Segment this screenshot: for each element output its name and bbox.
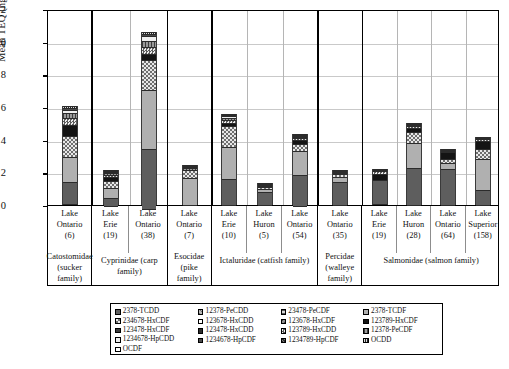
category-group: LakeOntario(7)Esocidae (pike family) bbox=[168, 206, 212, 285]
bar-segment bbox=[373, 180, 387, 205]
family-label: Percidae (walleye family) bbox=[318, 249, 361, 285]
legend-swatch-icon bbox=[115, 347, 121, 353]
site-sample-count: (28) bbox=[407, 230, 421, 241]
bar-segment bbox=[407, 168, 421, 206]
bar-segment bbox=[293, 151, 307, 175]
legend-item[interactable]: 12378-PeCDF bbox=[363, 326, 442, 336]
bar-segment bbox=[183, 170, 197, 177]
legend-item[interactable]: 234678-HxCDF bbox=[115, 316, 194, 325]
legend-swatch-icon bbox=[198, 338, 204, 344]
legend-swatch-icon bbox=[281, 328, 287, 334]
site-label-line: Lake bbox=[140, 208, 157, 219]
legend-label: 123789-HxCDF bbox=[371, 318, 418, 325]
site-label-line: Lake bbox=[256, 208, 273, 219]
site-label-line: Lake bbox=[405, 208, 422, 219]
legend-label: 234678-HxCDF bbox=[123, 318, 170, 325]
legend-swatch-icon bbox=[198, 328, 204, 334]
plot-area bbox=[47, 10, 499, 206]
bar-segment bbox=[258, 192, 272, 206]
legend-item[interactable]: 1234678-HpCDD bbox=[115, 335, 194, 344]
site-label: LakeOntario(38) bbox=[129, 206, 166, 253]
site-label-line: Lake bbox=[439, 208, 456, 219]
legend-label: 2378-TCDF bbox=[371, 308, 406, 315]
legend-item[interactable]: OCDD bbox=[363, 336, 442, 346]
legend-item[interactable]: 1234678-HpCDF bbox=[198, 336, 277, 346]
group-site-row: LakeErie(19)LakeOntario(38) bbox=[92, 206, 166, 253]
legend-item[interactable]: 123478-HxCDF bbox=[115, 326, 194, 335]
y-axis-tick-label: 10 bbox=[0, 38, 6, 49]
y-axis-tick-label: 0 bbox=[0, 201, 6, 212]
bar-segment bbox=[63, 125, 77, 136]
family-label: Esocidae (pike family) bbox=[168, 249, 211, 285]
legend-item[interactable]: 2378-TCDD bbox=[115, 307, 194, 316]
site-label: LakeOntario(6) bbox=[48, 206, 91, 249]
site-label-line: Lake bbox=[331, 208, 348, 219]
legend-item[interactable]: 23478-PeCDF bbox=[281, 307, 360, 317]
site-label: LakeErie(10) bbox=[212, 206, 247, 253]
legend-item[interactable]: 123678-HxCDF bbox=[281, 317, 360, 327]
legend-item[interactable]: 123678-HxCDD bbox=[198, 317, 277, 327]
site-label: LakeHuron(5) bbox=[247, 206, 282, 253]
site-label: LakeOntario(7) bbox=[168, 206, 211, 249]
legend-item[interactable]: 123478-HxCDD bbox=[198, 326, 277, 336]
legend-item[interactable]: 1234789-HpCDF bbox=[281, 336, 360, 346]
legend-swatch-icon bbox=[115, 309, 121, 315]
site-divider bbox=[431, 11, 432, 205]
site-label: LakeOntario(64) bbox=[431, 206, 465, 253]
site-sample-count: (54) bbox=[293, 230, 307, 241]
legend-label: 123478-HxCDD bbox=[206, 327, 254, 334]
legend-column: 23478-PeCDF123678-HxCDF123789-HxCDD12347… bbox=[277, 307, 360, 354]
family-label: Salmonidae (salmon family) bbox=[362, 253, 500, 285]
legend-item[interactable]: OCDF bbox=[115, 345, 194, 354]
site-label-line: Lake bbox=[102, 208, 119, 219]
bar-segment bbox=[476, 141, 490, 150]
bar-segment bbox=[476, 159, 490, 190]
category-group: LakeErie(19)LakeHuron(28)LakeOntario(64)… bbox=[362, 206, 500, 285]
bar-segment bbox=[142, 90, 156, 150]
category-group: LakeOntario(6)Catostomidae (sucker famil… bbox=[48, 206, 92, 285]
group-divider bbox=[362, 11, 364, 205]
bar-segment bbox=[142, 60, 156, 89]
bar-segment bbox=[63, 182, 77, 205]
site-divider bbox=[397, 11, 398, 205]
stacked-bar bbox=[141, 32, 157, 205]
site-label-line: Ontario bbox=[287, 219, 313, 230]
site-label-line: Lake bbox=[371, 208, 388, 219]
site-label-line: Erie bbox=[372, 219, 386, 230]
legend-swatch-icon bbox=[281, 319, 287, 325]
site-label-line: Erie bbox=[103, 219, 117, 230]
site-label-line: Huron bbox=[403, 219, 424, 230]
legend-label: 12378-PeCDF bbox=[371, 327, 413, 334]
bar-segment bbox=[407, 132, 421, 143]
site-label-line: Erie bbox=[222, 219, 236, 230]
legend-item[interactable]: 123789-HxCDF bbox=[363, 317, 442, 327]
bar-segment bbox=[142, 47, 156, 54]
bar-segment bbox=[476, 190, 490, 206]
group-site-row: LakeOntario(35) bbox=[318, 206, 361, 249]
category-group: LakeErie(10)LakeHuron(5)LakeOntario(54)I… bbox=[212, 206, 318, 285]
site-label: LakeErie(19) bbox=[362, 206, 396, 253]
bar-segment bbox=[63, 136, 77, 156]
bar-segment bbox=[63, 157, 77, 182]
site-sample-count: (35) bbox=[333, 230, 347, 241]
legend-label: 123478-HxCDF bbox=[123, 327, 170, 334]
site-sample-count: (5) bbox=[259, 230, 269, 241]
chart-legend: 2378-TCDD234678-HxCDF123478-HxCDF1234678… bbox=[110, 303, 443, 355]
legend-label: 1234678-HpCDD bbox=[123, 336, 175, 343]
group-divider bbox=[91, 11, 93, 205]
legend-column: 2378-TCDF123789-HxCDF12378-PeCDFOCDD bbox=[359, 307, 442, 354]
legend-label: OCDD bbox=[371, 337, 391, 344]
bar-segment bbox=[104, 181, 118, 188]
bar-segment bbox=[293, 144, 307, 151]
legend-item[interactable]: 2378-TCDF bbox=[363, 307, 442, 317]
site-sample-count: (158) bbox=[474, 230, 492, 241]
legend-item[interactable]: 12378-PeCDD bbox=[198, 307, 277, 317]
bar-segment bbox=[441, 152, 455, 159]
site-label-line: Ontario bbox=[57, 219, 83, 230]
legend-label: 1234789-HpCDF bbox=[288, 337, 338, 344]
site-sample-count: (38) bbox=[141, 230, 155, 241]
legend-item[interactable]: 123789-HxCDD bbox=[281, 326, 360, 336]
site-label-line: Lake bbox=[61, 208, 78, 219]
group-divider bbox=[211, 11, 213, 205]
site-label-line: Superior bbox=[468, 219, 497, 230]
